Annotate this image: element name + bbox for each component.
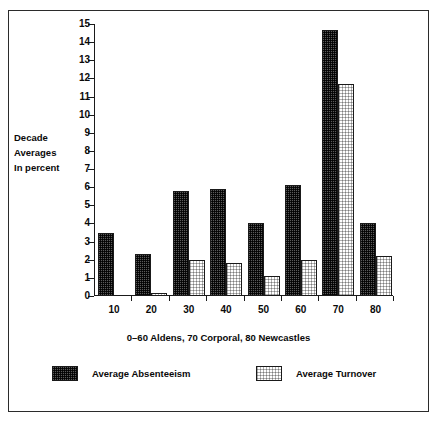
legend-swatch-turnover-icon (256, 366, 282, 381)
y-tick: 12 (94, 78, 95, 79)
y-axis-title: Decade Averages In percent (14, 130, 92, 175)
bar-absenteeism-10 (98, 233, 114, 296)
bar-absenteeism-70 (322, 30, 338, 296)
y-tick-label: 9 (84, 126, 90, 139)
x-tick-mark (281, 296, 282, 301)
bar-absenteeism-30 (173, 191, 189, 296)
x-tick-label: 60 (286, 304, 316, 315)
x-tick-label: 10 (99, 304, 129, 315)
chart-figure: Decade Averages In percent 0123456789101… (0, 0, 437, 421)
x-tick-label: 70 (323, 304, 353, 315)
y-tick-label: 13 (79, 53, 90, 66)
x-tick-label: 20 (136, 304, 166, 315)
y-tick: 2 (94, 260, 95, 261)
bar-absenteeism-80 (360, 223, 376, 296)
y-tick: 9 (94, 133, 95, 134)
y-axis-title-line-1: Decade (14, 130, 92, 145)
y-axis-title-line-2: Averages (14, 145, 92, 160)
x-tick-mark (318, 296, 319, 301)
x-tick-mark (131, 296, 132, 301)
x-tick-label: 50 (249, 304, 279, 315)
legend-label-turnover: Average Turnover (296, 368, 376, 379)
x-tick-mark (393, 296, 394, 301)
y-tick: 0 (94, 296, 95, 297)
y-tick-label: 4 (84, 216, 90, 229)
y-tick: 7 (94, 169, 95, 170)
y-tick: 10 (94, 115, 95, 116)
y-tick: 6 (94, 187, 95, 188)
x-tick-mark (206, 296, 207, 301)
bar-turnover-80 (376, 256, 392, 296)
legend-item-average-turnover: Average Turnover (256, 366, 376, 381)
y-tick-label: 7 (84, 162, 90, 175)
y-tick: 3 (94, 242, 95, 243)
bar-turnover-70 (338, 84, 354, 296)
bar-absenteeism-50 (248, 223, 264, 296)
bar-turnover-40 (226, 263, 242, 296)
x-tick-label: 80 (361, 304, 391, 315)
x-tick-mark (244, 296, 245, 301)
bar-absenteeism-40 (210, 189, 226, 296)
y-tick: 5 (94, 205, 95, 206)
y-tick: 14 (94, 42, 95, 43)
y-tick-label: 10 (79, 108, 90, 121)
y-tick: 13 (94, 60, 95, 61)
bar-absenteeism-60 (285, 185, 301, 296)
y-tick: 1 (94, 278, 95, 279)
x-tick-mark (169, 296, 170, 301)
y-tick-label: 0 (84, 289, 90, 302)
y-tick-label: 14 (79, 35, 90, 48)
x-axis-caption: 0–60 Aldens, 70 Corporal, 80 Newcastles (8, 332, 429, 343)
bar-turnover-30 (189, 260, 205, 296)
chart-legend: Average Absenteeism Average Turnover (8, 366, 429, 396)
y-tick: 4 (94, 223, 95, 224)
y-tick-label: 3 (84, 235, 90, 248)
x-tick-label: 40 (211, 304, 241, 315)
y-tick-label: 1 (84, 271, 90, 284)
plot-area: 0123456789101112131415 1020304050607080 (94, 24, 393, 296)
legend-label-absenteeism: Average Absenteeism (92, 368, 191, 379)
y-tick: 11 (94, 97, 95, 98)
y-tick-label: 11 (79, 90, 90, 103)
bar-turnover-20 (151, 293, 167, 296)
y-tick-label: 5 (84, 198, 90, 211)
y-axis-line (94, 24, 95, 296)
bar-absenteeism-20 (135, 254, 151, 296)
y-tick-label: 2 (84, 253, 90, 266)
bar-turnover-50 (264, 276, 280, 296)
x-tick-mark (356, 296, 357, 301)
y-tick: 8 (94, 151, 95, 152)
y-tick-label: 12 (79, 71, 90, 84)
legend-item-average-absenteeism: Average Absenteeism (52, 366, 191, 381)
y-tick: 15 (94, 24, 95, 25)
x-tick-label: 30 (174, 304, 204, 315)
legend-swatch-absenteeism-icon (52, 366, 78, 381)
bar-turnover-60 (301, 260, 317, 296)
y-axis-title-line-3: In percent (14, 160, 92, 175)
y-tick-label: 6 (84, 180, 90, 193)
y-tick-label: 15 (79, 17, 90, 30)
y-tick-label: 8 (84, 144, 90, 157)
